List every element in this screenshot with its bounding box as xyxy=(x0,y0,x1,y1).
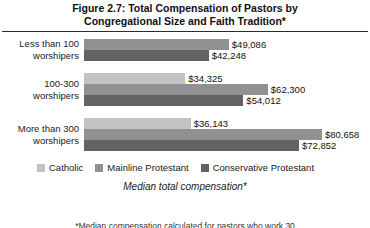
category-label-line-1: Less than 100 xyxy=(0,38,79,50)
legend-swatch-conservative-protestant xyxy=(201,164,209,172)
bar-conservative-protestant[interactable] xyxy=(84,95,243,106)
category-label-line-1: More than 300 xyxy=(0,123,79,135)
legend-item-catholic[interactable]: Catholic xyxy=(37,163,83,173)
bar-row: $36,143 xyxy=(84,118,370,129)
legend-label-conservative-protestant: Conservative Protestant xyxy=(213,163,314,173)
legend-label-catholic: Catholic xyxy=(49,163,83,173)
bar-row: $54,012 xyxy=(84,95,370,106)
bar-value-label: $34,325 xyxy=(185,73,222,84)
bar-value-label: $80,658 xyxy=(322,129,359,140)
bar-value-label: $42,248 xyxy=(209,50,246,61)
bar-catholic[interactable] xyxy=(84,118,191,129)
legend-item-conservative-protestant[interactable]: Conservative Protestant xyxy=(201,163,314,173)
legend-swatch-mainline-protestant xyxy=(95,164,103,172)
bar-group-100-300: 100-300 worshipers $34,325 $62,300 $54,0… xyxy=(0,73,370,106)
bar-row: $72,852 xyxy=(84,140,370,151)
category-label-line-1: 100-300 xyxy=(0,78,79,90)
bar-catholic[interactable] xyxy=(84,73,185,84)
bar-group-less-than-100: Less than 100 worshipers $49,086 $42,248 xyxy=(0,38,370,61)
bar-row: $34,325 xyxy=(84,73,370,84)
bar-conservative-protestant[interactable] xyxy=(84,50,209,61)
bar-row: $62,300 xyxy=(84,84,370,95)
legend-swatch-catholic xyxy=(37,164,45,172)
bar-value-label: $49,086 xyxy=(229,39,266,50)
chart-plot-area: Less than 100 worshipers $49,086 $42,248… xyxy=(0,38,370,151)
category-label-100-300: 100-300 worshipers xyxy=(0,78,84,101)
category-label-more-than-300: More than 300 worshipers xyxy=(0,123,84,146)
title-divider-rule xyxy=(2,31,368,32)
bar-conservative-protestant[interactable] xyxy=(84,140,299,151)
figure-title: Figure 2.7: Total Compensation of Pastor… xyxy=(0,0,370,28)
bar-value-label: $72,852 xyxy=(299,140,336,151)
bar-mainline-protestant[interactable] xyxy=(84,129,322,140)
category-label-line-2: worshipers xyxy=(0,50,79,62)
bar-stack-100-300: $34,325 $62,300 $54,012 xyxy=(84,73,370,106)
legend-label-mainline-protestant: Mainline Protestant xyxy=(107,163,188,173)
bar-value-label: $62,300 xyxy=(268,84,305,95)
category-label-line-2: worshipers xyxy=(0,135,79,147)
bar-value-label: $36,143 xyxy=(191,118,228,129)
bar-mainline-protestant[interactable] xyxy=(84,84,268,95)
bar-row: $80,658 xyxy=(84,129,370,140)
figure-title-line-1: Figure 2.7: Total Compensation of Pastor… xyxy=(26,2,344,15)
figure-title-line-2: Congregational Size and Faith Tradition* xyxy=(26,15,344,28)
bar-stack-more-than-300: $36,143 $80,658 $72,852 xyxy=(84,118,370,151)
figure-footnote: *Median compensation calculated for past… xyxy=(0,221,370,228)
bar-group-more-than-300: More than 300 worshipers $36,143 $80,658… xyxy=(0,118,370,151)
x-axis-title: Median total compensation* xyxy=(0,181,370,192)
bar-value-label: $54,012 xyxy=(243,95,280,106)
chart-legend: Catholic Mainline Protestant Conservativ… xyxy=(0,163,370,173)
bar-mainline-protestant[interactable] xyxy=(84,39,229,50)
legend-item-mainline-protestant[interactable]: Mainline Protestant xyxy=(95,163,188,173)
category-label-less-than-100: Less than 100 worshipers xyxy=(0,38,84,61)
figure-container: Figure 2.7: Total Compensation of Pastor… xyxy=(0,0,370,228)
bar-row: $42,248 xyxy=(84,50,370,61)
bar-stack-less-than-100: $49,086 $42,248 xyxy=(84,39,370,61)
category-label-line-2: worshipers xyxy=(0,90,79,102)
bar-row: $49,086 xyxy=(84,39,370,50)
